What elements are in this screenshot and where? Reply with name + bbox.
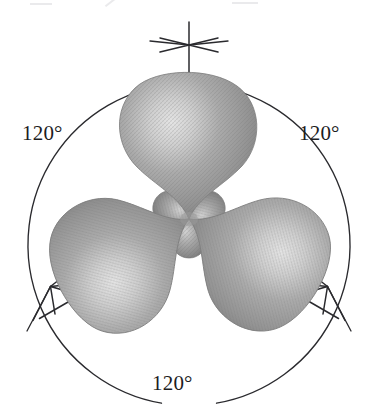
scan-artifact	[30, 3, 52, 5]
orbital-lobe-up	[119, 72, 256, 219]
orbital-diagram-figure: 120° 120° 120°	[0, 0, 380, 409]
scan-artifact	[232, 2, 258, 4]
angle-label-bottom: 120°	[152, 371, 193, 396]
tick-top	[150, 22, 228, 78]
orbital-diagram-svg	[0, 0, 380, 409]
angle-label-left: 120°	[22, 121, 63, 146]
angle-label-right: 120°	[299, 121, 340, 146]
nucleus-point	[180, 212, 198, 226]
